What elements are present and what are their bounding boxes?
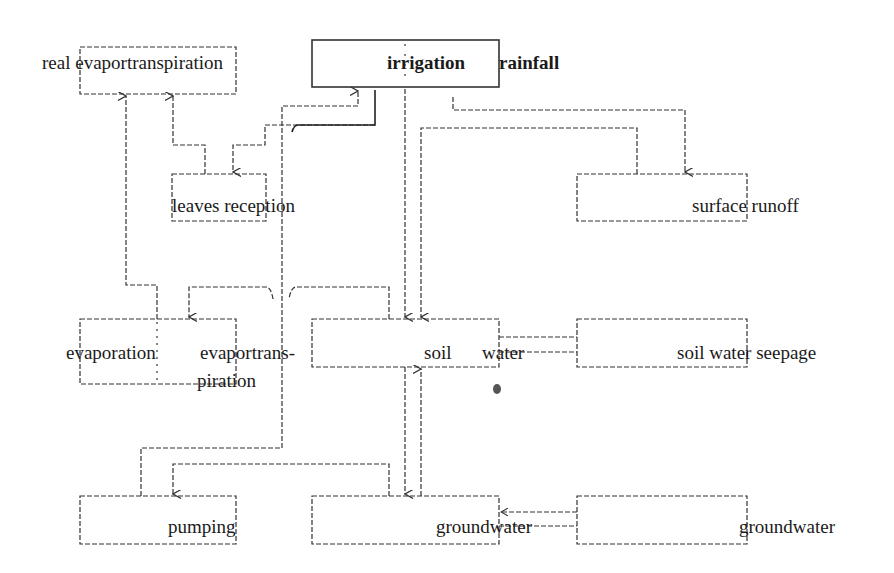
node-pumping-label: pumping bbox=[168, 517, 236, 536]
node-evaporation-label: evaporation bbox=[66, 343, 156, 362]
node-groundwater-right-label: groundwater bbox=[739, 517, 835, 536]
node-soil-water-seepage-label: soil water seepage bbox=[677, 343, 816, 362]
node-irrigation-label: irrigation bbox=[387, 53, 465, 72]
node-water-label: water bbox=[482, 343, 524, 362]
node-leaves-reception-label: leaves reception bbox=[172, 196, 295, 215]
node-rainfall-label: rainfall bbox=[499, 53, 559, 72]
groundwater-right-box bbox=[577, 496, 747, 544]
node-groundwater-center-label: groundwater bbox=[436, 517, 532, 536]
node-evapotranspiration-label-line2: piration bbox=[197, 371, 256, 390]
soil-water-box bbox=[312, 319, 499, 367]
node-surface-runoff-label: surface runoff bbox=[692, 196, 799, 215]
water-balance-diagram bbox=[0, 0, 894, 573]
node-soil-label: soil bbox=[424, 343, 451, 362]
smudge-mark bbox=[493, 384, 501, 394]
node-evapotranspiration-label-line1: evaportrans- bbox=[200, 343, 295, 362]
node-real-evapotranspiration-label: real evaportranspiration bbox=[42, 53, 223, 72]
